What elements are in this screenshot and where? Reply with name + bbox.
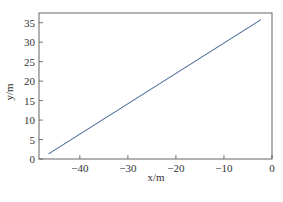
x-tick-label: −30: [119, 162, 137, 174]
y-axis-ticks: 05101520253035: [24, 17, 43, 165]
x-axis-label: x/m: [147, 171, 165, 183]
y-tick-label: 20: [24, 75, 36, 87]
y-tick-label: 0: [30, 153, 36, 165]
y-tick-label: 10: [24, 114, 36, 126]
y-tick-label: 5: [30, 134, 36, 146]
y-tick-label: 25: [24, 56, 36, 68]
x-tick-label: 0: [269, 162, 275, 174]
y-tick-label: 30: [24, 36, 36, 48]
y-tick-label: 15: [24, 95, 36, 107]
x-tick-label: −10: [215, 162, 233, 174]
x-tick-label: −40: [71, 162, 89, 174]
x-tick-label: −20: [167, 162, 185, 174]
y-axis-label: y/m: [3, 83, 15, 101]
data-series: [49, 20, 261, 154]
line-chart: −40−30−20−100 05101520253035 x/m y/m: [0, 0, 283, 202]
series-line: [49, 20, 261, 154]
x-axis-ticks: −40−30−20−100: [71, 155, 275, 174]
y-tick-label: 35: [24, 17, 36, 29]
